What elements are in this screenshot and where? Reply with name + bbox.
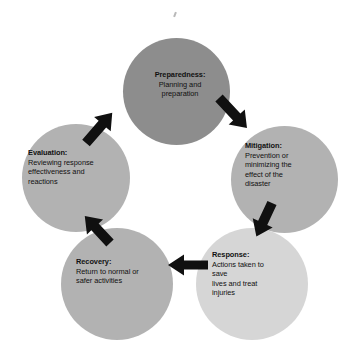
label-response-title: Response: bbox=[212, 250, 304, 260]
label-recovery-title: Recovery: bbox=[76, 257, 170, 267]
label-mitigation-line-2: minimizing the bbox=[245, 160, 329, 170]
label-recovery-line-1: Return to normal or bbox=[76, 267, 170, 277]
label-mitigation-line-1: Prevention or bbox=[245, 151, 329, 161]
arrow-mitigation-to-response bbox=[246, 198, 282, 241]
label-preparedness-title: Preparedness: bbox=[141, 70, 219, 80]
arrow-evaluation-to-preparedness bbox=[78, 106, 121, 151]
label-response-line-3: lives and treat bbox=[212, 279, 304, 289]
label-recovery-line-2: safer activities bbox=[76, 276, 170, 286]
label-response-line-4: injuries bbox=[212, 288, 304, 298]
label-evaluation-line-2: effectiveness and bbox=[28, 167, 126, 177]
label-evaluation: Evaluation: Reviewing response effective… bbox=[28, 148, 126, 186]
arrow-recovery-to-evaluation bbox=[77, 208, 118, 250]
label-recovery: Recovery: Return to normal or safer acti… bbox=[76, 257, 170, 286]
label-evaluation-line-3: reactions bbox=[28, 177, 126, 187]
label-response-line-1: Actions taken to bbox=[212, 260, 304, 270]
label-preparedness-line-2: preparation bbox=[141, 89, 219, 99]
label-preparedness: Preparedness: Planning and preparation bbox=[141, 70, 219, 99]
label-response-line-2: save bbox=[212, 269, 304, 279]
arrow-response-to-recovery bbox=[168, 255, 208, 276]
disaster-management-cycle-diagram: Preparedness: Planning and preparation M… bbox=[0, 0, 352, 351]
label-evaluation-line-1: Reviewing response bbox=[28, 158, 126, 168]
label-mitigation-title: Mitigation: bbox=[245, 141, 329, 151]
label-mitigation-line-4: disaster bbox=[245, 179, 329, 189]
label-response: Response: Actions taken to save lives an… bbox=[212, 250, 304, 298]
label-mitigation-line-3: effect of the bbox=[245, 170, 329, 180]
label-evaluation-title: Evaluation: bbox=[28, 148, 126, 158]
label-mitigation: Mitigation: Prevention or minimizing the… bbox=[245, 141, 329, 189]
label-preparedness-line-1: Planning and bbox=[141, 80, 219, 90]
